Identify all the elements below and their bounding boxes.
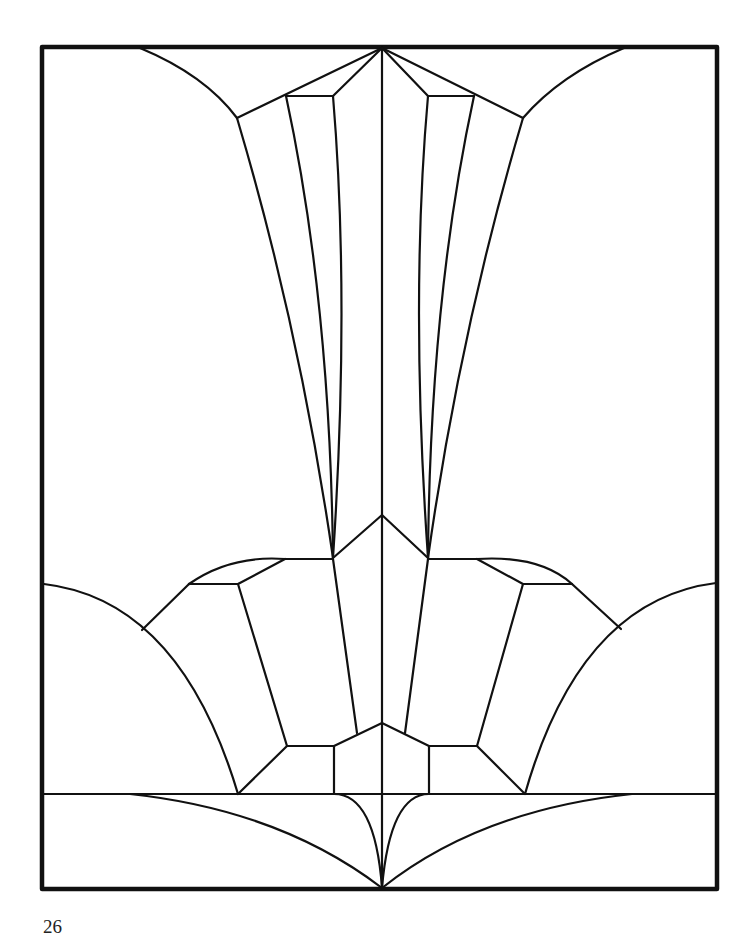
middle-crown-section	[44, 559, 716, 794]
page-number: 26	[43, 916, 62, 938]
bottom-base-section	[44, 794, 716, 888]
stained-glass-pattern	[0, 0, 752, 948]
top-fan-section	[140, 47, 624, 888]
pattern-frame	[42, 47, 717, 889]
